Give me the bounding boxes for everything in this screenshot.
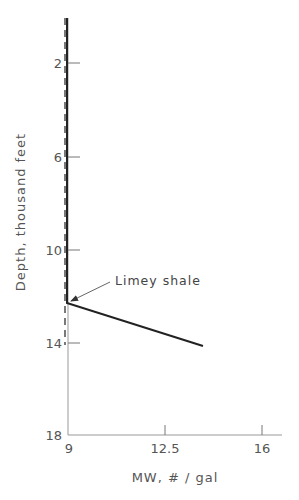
mw-curve — [67, 18, 203, 346]
chart-canvas: 2 6 10 14 18 9 12.5 16 MW, # / gal Depth… — [0, 0, 299, 500]
y-tick-label: 6 — [54, 150, 62, 165]
x-tick-label: 9 — [65, 441, 73, 456]
annotation-limey-shale: Limey shale — [115, 273, 201, 288]
x-tick-label: 16 — [254, 441, 271, 456]
y-axis-title: Depth, thousand feet — [13, 133, 28, 291]
y-tick-label: 10 — [45, 243, 62, 258]
x-ticks — [165, 425, 262, 435]
y-tick-label: 18 — [45, 428, 62, 443]
annotation-arrow — [71, 282, 110, 301]
x-tick-label: 12.5 — [151, 441, 180, 456]
x-axis-title: MW, # / gal — [132, 470, 219, 485]
y-tick-label: 14 — [45, 336, 62, 351]
y-ticks — [68, 63, 80, 343]
y-tick-label: 2 — [54, 56, 62, 71]
